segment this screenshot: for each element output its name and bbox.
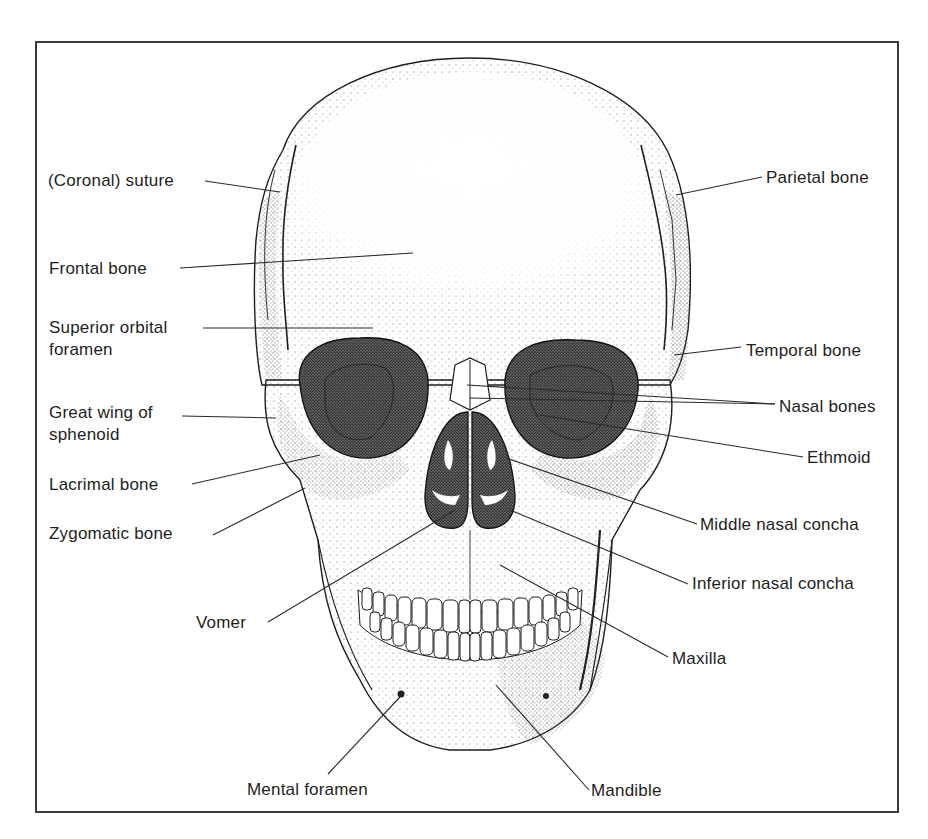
label-zygomatic-bone: Zygomatic bone [49,524,173,544]
label-parietal-bone: Parietal bone [766,168,869,188]
mental-foramen-mark [398,691,405,698]
label-maxilla: Maxilla [672,649,726,669]
label-middle-nasal-concha: Middle nasal concha [700,515,859,535]
label-great-wing-line2: sphenoid [49,425,153,445]
label-superior-orbital-foramen: Superior orbital foramen [49,318,167,360]
label-ethmoid: Ethmoid [807,448,871,468]
label-inferior-nasal-concha: Inferior nasal concha [692,574,854,594]
label-vomer: Vomer [196,613,246,633]
label-superior-orbital-foramen-line2: foramen [49,340,167,360]
label-frontal-bone: Frontal bone [49,259,147,279]
label-great-wing-of-sphenoid: Great wing of sphenoid [49,403,153,445]
label-coronal-suture: (Coronal) suture [48,171,174,191]
cranium [254,58,690,385]
label-lacrimal-bone: Lacrimal bone [49,475,158,495]
label-great-wing-line1: Great wing of [49,403,153,423]
label-nasal-bones: Nasal bones [779,397,876,417]
label-temporal-bone: Temporal bone [746,341,861,361]
label-mandible: Mandible [591,781,662,801]
label-superior-orbital-foramen-line1: Superior orbital [49,318,167,338]
label-mental-foramen: Mental foramen [247,780,368,800]
